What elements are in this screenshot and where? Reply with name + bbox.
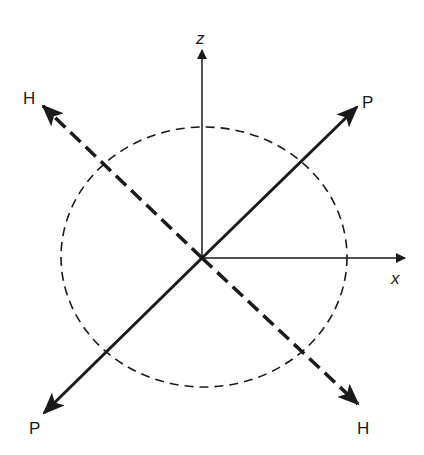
p-axis-lower [44, 258, 202, 413]
h-bottom-label: H [357, 419, 369, 438]
p-top-label: P [362, 93, 373, 112]
h-axis-lower [202, 258, 358, 404]
x-axis-label: x [390, 269, 400, 288]
diagram-canvas: z x P P H H [0, 0, 424, 455]
p-bottom-label: P [29, 419, 40, 438]
h-top-label: H [23, 89, 35, 108]
p-axis-upper [202, 107, 357, 258]
z-axis-label: z [195, 29, 205, 48]
